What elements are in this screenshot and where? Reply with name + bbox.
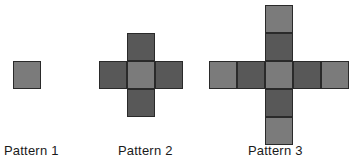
pattern-1-caption: Pattern 1 <box>4 143 59 158</box>
pattern-3-square <box>265 89 293 117</box>
pattern-2-square <box>127 61 155 89</box>
pattern-3-square <box>293 61 321 89</box>
pattern-2-square <box>99 61 127 89</box>
pattern-3-square <box>209 61 237 89</box>
pattern-3-square <box>265 61 293 89</box>
pattern-3-square <box>265 5 293 33</box>
pattern-2-square <box>127 89 155 117</box>
pattern-3-caption: Pattern 3 <box>248 143 303 158</box>
pattern-1-square <box>13 61 41 89</box>
pattern-2-square <box>127 33 155 61</box>
pattern-3-square <box>265 117 293 145</box>
pattern-2-square <box>155 61 183 89</box>
pattern-2-caption: Pattern 2 <box>118 143 173 158</box>
pattern-3-square <box>321 61 349 89</box>
pattern-3-square <box>237 61 265 89</box>
pattern-3-square <box>265 33 293 61</box>
pattern-sequence-figure: Pattern 1Pattern 2Pattern 3 <box>0 0 357 162</box>
